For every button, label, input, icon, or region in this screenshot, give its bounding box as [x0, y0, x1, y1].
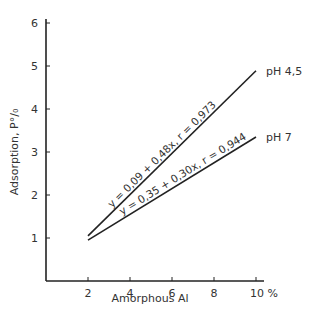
y-axis-ticks: 123456: [31, 17, 50, 245]
y-tick-label: 4: [31, 103, 38, 116]
x-tick-label: 8: [211, 287, 218, 300]
x-tick-label: 2: [85, 287, 92, 300]
y-tick-label: 5: [31, 60, 38, 73]
series-lines: pH 4,5y = 0,09 + 0,48x, r = 0,973pH 7y =…: [88, 65, 302, 240]
y-tick-label: 1: [31, 232, 38, 245]
x-tick-label: 10 %: [250, 287, 278, 300]
x-axis-label: Amorphous Al: [112, 292, 189, 305]
y-tick-label: 2: [31, 189, 38, 202]
series-label: pH 4,5: [266, 65, 302, 78]
y-axis-label: Adsorption, P°/₀: [8, 108, 21, 195]
chart: 123456 246810 % pH 4,5y = 0,09 + 0,48x, …: [0, 0, 313, 322]
y-tick-label: 3: [31, 146, 38, 159]
series-label: pH 7: [266, 131, 292, 144]
y-tick-label: 6: [31, 17, 38, 30]
